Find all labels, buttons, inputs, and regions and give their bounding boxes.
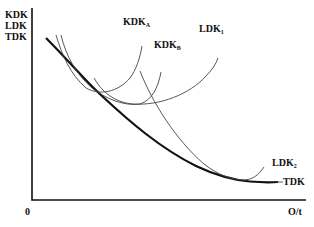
y-axis-label-tdk: TDK xyxy=(5,32,27,42)
kdk-a-label-sub: A xyxy=(146,22,150,28)
ldk-2-label-sub: 2 xyxy=(294,163,297,169)
ldk-2-label-text: LDK xyxy=(272,157,294,168)
ldk-1-label-text: LDK xyxy=(199,23,221,34)
y-axis-label-kdk: KDK xyxy=(5,10,28,20)
ldk-1-label-sub: 1 xyxy=(221,29,224,35)
kdk-b-label: KDKB xyxy=(154,40,181,50)
ldk-2-curve xyxy=(140,71,264,180)
tdk-label-text: TDK xyxy=(283,176,305,187)
kdk-b-label-sub: B xyxy=(177,45,181,51)
x-axis-label: O/t xyxy=(288,207,302,217)
ldk-1-curve xyxy=(94,58,218,104)
tdk-curve xyxy=(46,38,278,182)
y-axis-label-ldk: LDK xyxy=(5,21,27,31)
origin-label: 0 xyxy=(25,207,30,217)
ldk-1-label: LDK1 xyxy=(199,24,224,34)
diagram-canvas xyxy=(0,0,314,227)
cost-curve-diagram: KDK LDK TDK 0 O/t KDKA KDKB LDK1 LDK2 TD… xyxy=(0,0,314,227)
ldk-2-label: LDK2 xyxy=(272,158,297,168)
kdk-a-label: KDKA xyxy=(123,17,150,27)
kdk-a-label-text: KDK xyxy=(123,16,146,27)
tdk-label: TDK xyxy=(283,177,305,187)
kdk-b-curve xyxy=(61,35,161,104)
kdk-b-label-text: KDK xyxy=(154,39,177,50)
